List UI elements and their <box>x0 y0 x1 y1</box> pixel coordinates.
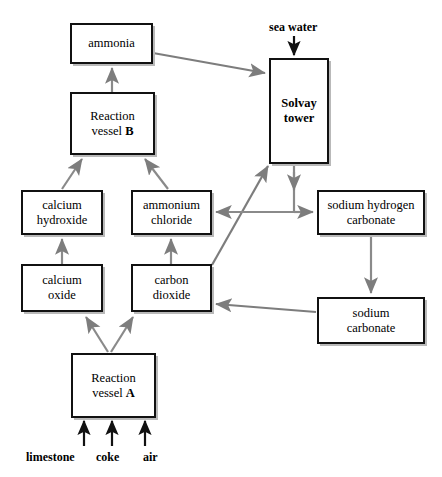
node-reaction-vessel-a[interactable]: Reaction vessel A <box>71 353 156 418</box>
node-sodium-carbonate[interactable]: sodium carbonate <box>317 297 425 344</box>
connector-ammonia-to-solvay <box>153 53 265 73</box>
connector-layer <box>0 0 442 477</box>
node-sodium-hydrogen-carbonate[interactable]: sodium hydrogen carbonate <box>317 190 425 235</box>
node-ammonium-chloride-label: ammonium chloride <box>140 198 203 228</box>
node-calcium-hydroxide-label: calcium hydroxide <box>34 198 91 228</box>
node-sodium-carbonate-label: sodium carbonate <box>344 306 399 336</box>
io-label-coke-text: coke <box>96 450 119 464</box>
node-calcium-oxide[interactable]: calcium oxide <box>21 264 103 312</box>
node-carbon-dioxide[interactable]: carbon dioxide <box>131 264 212 312</box>
io-label-coke: coke <box>96 450 119 465</box>
node-calcium-oxide-label: calcium oxide <box>39 273 85 303</box>
connector-vessela-to-carbondioxide <box>111 317 133 352</box>
io-label-limestone: limestone <box>26 450 75 465</box>
io-label-air-text: air <box>143 450 158 464</box>
connector-sodiumcarbonate-to-carbondioxide <box>216 304 316 312</box>
node-reaction-vessel-a-label: Reaction vessel A <box>88 371 138 401</box>
node-ammonia-label: ammonia <box>85 36 138 51</box>
connector-vessela-to-calciumoxide <box>86 317 108 352</box>
node-solvay-tower[interactable]: Solvay tower <box>269 58 329 164</box>
io-label-sea-water-text: sea water <box>269 20 317 34</box>
connector-ammoniumchloride-to-vesselb <box>145 159 168 189</box>
node-ammonium-chloride[interactable]: ammonium chloride <box>131 190 212 235</box>
node-reaction-vessel-b-label-suffix: B <box>125 124 133 138</box>
node-calcium-hydroxide[interactable]: calcium hydroxide <box>21 190 103 235</box>
connector-carbondioxide-to-solvay <box>212 166 268 265</box>
io-label-limestone-text: limestone <box>26 450 75 464</box>
node-carbon-dioxide-label: carbon dioxide <box>150 273 194 303</box>
node-ammonia[interactable]: ammonia <box>70 23 153 64</box>
node-reaction-vessel-a-label-suffix: A <box>126 386 135 400</box>
io-label-sea-water: sea water <box>269 20 317 35</box>
solvay-process-diagram: ammonia Reaction vessel B Solvay tower c… <box>0 0 442 477</box>
node-reaction-vessel-b-label: Reaction vessel B <box>87 109 137 139</box>
node-solvay-tower-label: Solvay tower <box>278 96 319 126</box>
node-reaction-vessel-b[interactable]: Reaction vessel B <box>70 92 155 155</box>
connector-calciumhydroxide-to-vesselb <box>62 159 82 189</box>
io-label-air: air <box>143 450 158 465</box>
node-sodium-hydrogen-carbonate-label: sodium hydrogen carbonate <box>324 198 417 228</box>
